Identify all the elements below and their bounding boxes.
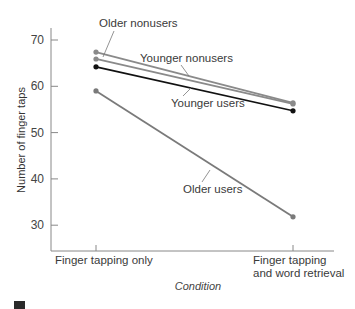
label-older-nonusers: Older nonusers: [99, 17, 178, 29]
y-tick-label: 30: [31, 218, 45, 232]
series-line: [96, 91, 293, 217]
category-label-0: Finger tapping only: [55, 254, 153, 266]
y-ticks: 3040506070: [31, 33, 58, 232]
y-tick-label: 60: [31, 79, 45, 93]
label-older-users: Older users: [183, 183, 243, 195]
data-point: [290, 108, 295, 113]
leader-line: [103, 31, 114, 57]
y-tick-label: 40: [31, 172, 45, 186]
data-point: [93, 49, 98, 54]
data-point: [290, 214, 295, 219]
leader-line: [183, 87, 192, 96]
category-label-1-line2: and word retrieval: [253, 267, 344, 279]
data-point: [290, 101, 295, 106]
y-tick-label: 50: [31, 126, 45, 140]
x-axis-label: Condition: [175, 280, 221, 292]
data-point: [93, 88, 98, 93]
y-axis-label: Number of finger taps: [15, 87, 27, 193]
category-label-1-line1: Finger tapping: [253, 254, 327, 266]
data-point: [93, 56, 98, 61]
label-younger-users: Younger users: [171, 97, 245, 109]
leader-line: [202, 170, 210, 182]
label-younger-nonusers: Younger nonusers: [140, 52, 233, 64]
data-point: [93, 64, 98, 69]
y-tick-label: 70: [31, 33, 45, 47]
figure-marker-square: [14, 301, 25, 309]
